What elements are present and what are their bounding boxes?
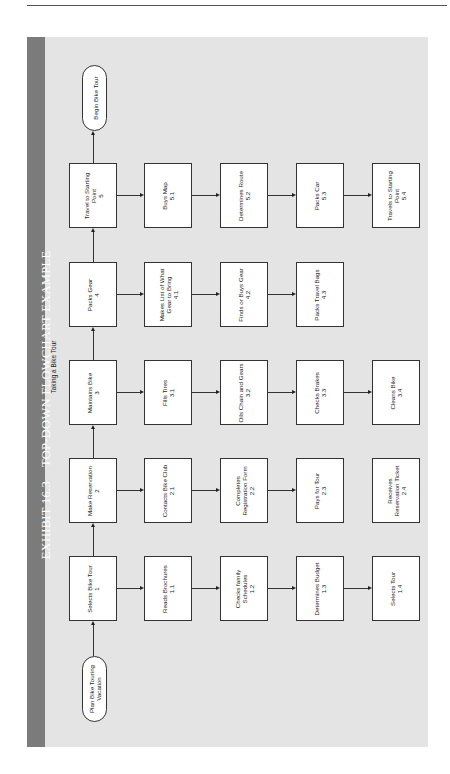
substep-number: 2.2 xyxy=(248,486,255,495)
connector xyxy=(192,392,216,393)
substep-number: 1.1 xyxy=(168,584,175,593)
connector xyxy=(268,294,292,295)
connector-4-to-5 xyxy=(93,232,94,262)
step-number: 5 xyxy=(97,194,104,197)
exhibit-number: EXHIBIT 16.3 xyxy=(39,481,53,559)
substep-number: 2.3 xyxy=(320,486,327,495)
substep-box-3-4: Cleans Bike3.4 xyxy=(372,360,420,425)
substep-number: 4.1 xyxy=(172,290,179,299)
substep-label: Determines Budget xyxy=(313,562,320,615)
connector xyxy=(117,294,140,295)
substep-label: Receives Reservation Ticket xyxy=(386,465,400,516)
substep-label: Selects Tour xyxy=(389,572,396,606)
connector xyxy=(192,490,216,491)
substep-box-1-1: Reads Brochures1.1 xyxy=(144,556,192,621)
substep-label: Makes List of What Gear to Bring xyxy=(158,268,172,321)
connector xyxy=(117,392,140,393)
substep-box-5-3: Packs Car5.3 xyxy=(296,163,344,228)
arrowhead-up-icon xyxy=(91,327,95,331)
connector-3-to-4 xyxy=(93,331,94,362)
substep-box-4-3: Packs Travel Bags4.3 xyxy=(296,262,344,327)
substep-box-4-2: Finds or Buys Gear4.2 xyxy=(220,262,268,327)
step-box-1: Selects Bike Tour1 xyxy=(69,556,117,621)
substep-box-3-3: Checks Brakes3.3 xyxy=(296,360,344,425)
substep-number: 5.3 xyxy=(320,191,327,200)
connector xyxy=(117,195,140,196)
substep-label: Travels to Starting Point xyxy=(386,171,400,221)
connector xyxy=(117,588,140,589)
substep-box-5-2: Determines Route5.2 xyxy=(220,163,268,228)
end-terminal: Begin Bike Tour xyxy=(82,65,107,131)
substep-label: Determines Route xyxy=(237,171,244,221)
substep-number: 2.4 xyxy=(400,486,407,495)
connector-1-to-2 xyxy=(93,527,94,556)
substep-number: 4.3 xyxy=(320,290,327,299)
step-label: Travel to Starting Point xyxy=(83,172,97,219)
end-terminal-label: Begin Bike Tour xyxy=(91,68,98,128)
substep-number: 3.3 xyxy=(320,388,327,397)
substep-number: 1.3 xyxy=(320,584,327,593)
substep-label: Oils Chain and Gears xyxy=(237,363,244,422)
step-box-5: Travel to Starting Point5 xyxy=(69,163,117,228)
connector xyxy=(192,588,216,589)
substep-number: 5.2 xyxy=(244,191,251,200)
substep-box-1-3: Determines Budget1.3 xyxy=(296,556,344,621)
substep-label: Buys Map xyxy=(161,182,168,210)
substep-box-2-3: Pays for Tour2.3 xyxy=(296,458,344,523)
connector xyxy=(344,588,368,589)
connector-2-to-3 xyxy=(93,429,94,458)
connector xyxy=(192,294,216,295)
substep-label: Contacts Bike Club xyxy=(161,464,168,517)
substep-number: 1.4 xyxy=(396,584,403,593)
substep-number: 3.1 xyxy=(168,388,175,397)
header-rule xyxy=(27,5,447,6)
substep-label: Reads Brochures xyxy=(161,565,168,613)
arrowhead-up-icon xyxy=(91,425,95,429)
substep-box-5-4: Travels to Starting Point5.4 xyxy=(372,163,420,228)
step-box-4: Packs Gear4 xyxy=(69,262,117,327)
connector xyxy=(192,195,216,196)
step-number: 4 xyxy=(93,293,100,296)
step-number: 2 xyxy=(93,489,100,492)
substep-number: 3.4 xyxy=(396,388,403,397)
connector xyxy=(268,392,292,393)
step-label: Selects Bike Tour xyxy=(86,565,93,613)
arrowhead-up-icon xyxy=(91,523,95,527)
step-label: Make Reservation xyxy=(86,466,93,516)
substep-label: Pays for Tour xyxy=(313,472,320,508)
connector-5-to-end xyxy=(93,135,94,163)
step-number: 3 xyxy=(93,391,100,394)
substep-box-2-1: Contacts Bike Club2.1 xyxy=(144,458,192,523)
start-terminal-label: Plan Bike Touring Vacation xyxy=(88,659,102,719)
start-terminal: Plan Bike Touring Vacation xyxy=(82,656,107,722)
substep-box-3-2: Oils Chain and Gears3.2 xyxy=(220,360,268,425)
substep-label: Packs Travel Bags xyxy=(313,269,320,320)
substep-box-1-2: Checks family Schedules1.2 xyxy=(220,556,268,621)
substep-box-4-1: Makes List of What Gear to Bring4.1 xyxy=(144,262,192,327)
substep-number: 5.4 xyxy=(400,191,407,200)
step-label: Maintains Bike xyxy=(86,372,93,412)
substep-number: 1.2 xyxy=(248,584,255,593)
substep-number: 5.1 xyxy=(168,191,175,200)
substep-label: Packs Car xyxy=(313,181,320,210)
connector xyxy=(117,490,140,491)
substep-label: Cleans Bike xyxy=(389,376,396,409)
step-box-3: Maintains Bike3 xyxy=(69,360,117,425)
step-label: Packs Gear xyxy=(86,278,93,310)
connector-start-to-1 xyxy=(93,625,94,656)
arrowhead-up-icon xyxy=(91,131,95,135)
substep-label: Completes Registration Form xyxy=(234,466,248,515)
step-number: 1 xyxy=(93,587,100,590)
substep-box-1-4: Selects Tour1.4 xyxy=(372,556,420,621)
connector xyxy=(268,490,292,491)
substep-number: 2.1 xyxy=(168,486,175,495)
connector xyxy=(268,588,292,589)
connector xyxy=(344,195,368,196)
substep-box-2-4: Receives Reservation Ticket2.4 xyxy=(372,458,420,523)
substep-box-2-2: Completes Registration Form2.2 xyxy=(220,458,268,523)
connector xyxy=(268,195,292,196)
connector xyxy=(344,392,368,393)
substep-number: 4.2 xyxy=(244,290,251,299)
substep-label: Checks Brakes xyxy=(313,372,320,414)
substep-label: Checks family Schedules xyxy=(234,569,248,608)
